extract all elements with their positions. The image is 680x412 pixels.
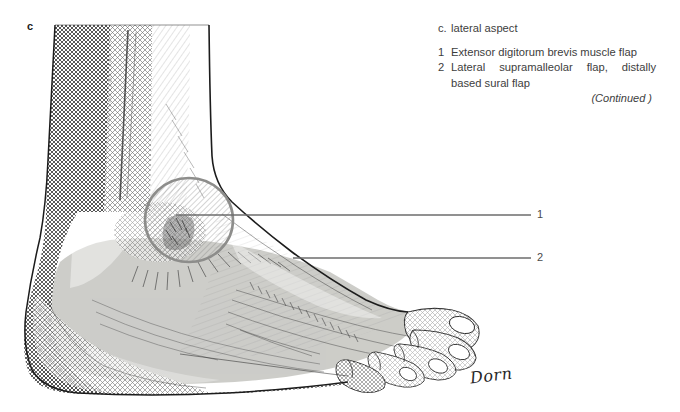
caption-item-2-text: Lateral supramalleolar flap, distally ba… [451, 60, 656, 90]
figure-canvas: c 1 2 c. lateral aspect 1 Extensor digit… [0, 0, 680, 412]
caption-item-1-text: Extensor digitorum brevis muscle flap [451, 45, 656, 60]
caption-item-1: 1 Extensor digitorum brevis muscle flap [438, 45, 656, 60]
caption-heading: c. lateral aspect [438, 21, 656, 36]
leader-label-1: 1 [537, 208, 543, 220]
caption-heading-marker: c. [438, 21, 451, 36]
leader-label-2: 2 [537, 251, 543, 263]
panel-label-c: c [27, 20, 33, 32]
caption-item-2: 2 Lateral supramalleolar flap, distally … [438, 60, 656, 90]
caption-item-1-number: 1 [438, 45, 451, 60]
continued-note: (Continued ) [438, 92, 652, 104]
marker-circle-extensor-digitorum-brevis [145, 178, 233, 262]
caption-item-2-number: 2 [438, 60, 451, 90]
figure-caption: c. lateral aspect 1 Extensor digitorum b… [438, 21, 656, 91]
caption-heading-text: lateral aspect [451, 21, 518, 36]
